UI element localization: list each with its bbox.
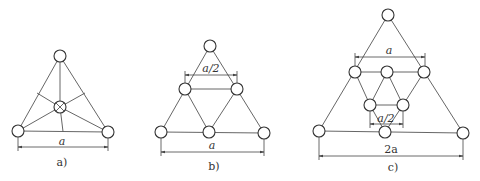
node-circle	[364, 99, 376, 111]
dimension-label: a	[209, 139, 216, 152]
figure-caption: c)	[388, 161, 398, 174]
spoke	[60, 107, 108, 132]
figure-caption: b)	[208, 160, 219, 173]
outer-triangle	[18, 56, 108, 132]
node-circle	[179, 83, 191, 95]
dimension-label: a	[59, 135, 66, 148]
node-circle	[102, 126, 114, 138]
node-circle	[457, 127, 469, 139]
node-circle	[258, 127, 270, 139]
node-circle	[418, 66, 430, 78]
node-circle	[397, 99, 409, 111]
node-circle	[381, 66, 393, 78]
dimension-label: 2a	[384, 143, 398, 156]
upper-dimension-label: a	[386, 44, 393, 57]
node-circle	[349, 66, 361, 78]
node-circle	[379, 126, 391, 138]
node-circle	[204, 40, 216, 52]
inner-dimension-label: a/2	[377, 112, 394, 125]
inner-edge	[209, 89, 237, 132]
node-circle	[54, 50, 66, 62]
figure-b: a/2 a b)	[155, 40, 270, 173]
inner-edge	[185, 89, 209, 132]
node-circle	[155, 126, 167, 138]
figure-caption: a)	[57, 156, 68, 169]
triangle-node-diagrams: a a) a/2 a b)	[0, 0, 480, 181]
node-circle	[203, 126, 215, 138]
figure-a: a a)	[12, 50, 114, 169]
node-circle	[313, 125, 325, 137]
node-circle	[231, 83, 243, 95]
inner-dimension-label: a/2	[202, 62, 219, 75]
node-circle	[382, 9, 394, 21]
node-circle	[12, 125, 24, 137]
figure-c: a a/2 2a c)	[313, 9, 469, 174]
outer-triangle	[161, 46, 264, 133]
